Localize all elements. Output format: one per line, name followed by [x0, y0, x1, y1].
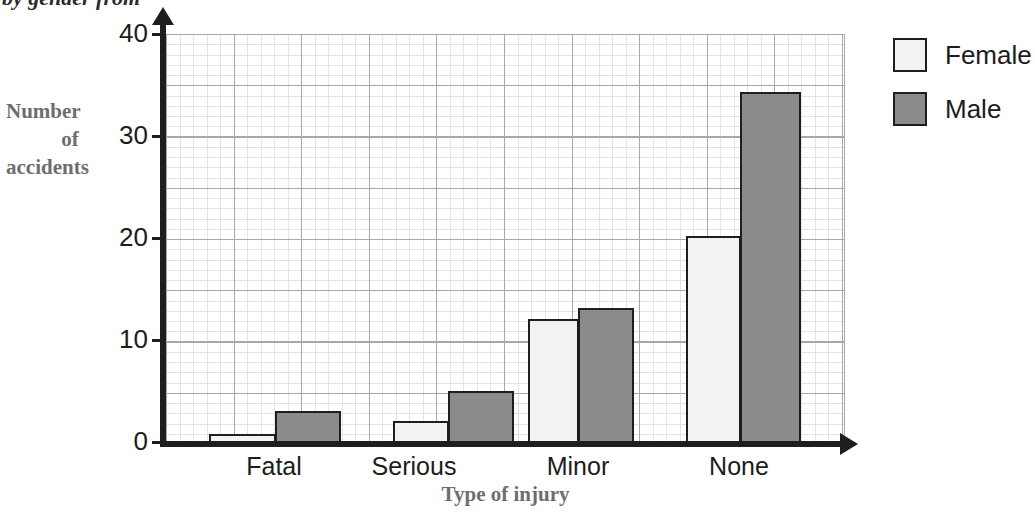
- legend-item-male: Male: [893, 82, 1033, 136]
- y-axis-arrowhead: [152, 7, 174, 25]
- x-axis-label-serious: Serious: [334, 452, 494, 481]
- y-axis-tick-label-10: 10: [119, 326, 148, 352]
- y-axis-tick-30: [152, 135, 163, 138]
- plot-area: [166, 34, 845, 444]
- legend-item-female: Female: [893, 28, 1033, 82]
- x-axis-label-fatal: Fatal: [194, 452, 354, 481]
- legend: Female Male: [893, 28, 1033, 136]
- y-axis-tick-10: [152, 339, 163, 342]
- y-axis-tick-20: [152, 237, 163, 240]
- y-axis-tick-label-40: 40: [119, 20, 148, 46]
- grid-right-border: [844, 34, 845, 444]
- bar-fatal-male: [275, 411, 341, 444]
- y-axis-tick-label-20: 20: [119, 224, 148, 250]
- y-axis-title-line-3: accidents: [6, 154, 134, 182]
- y-axis-title-line-2: of: [6, 126, 134, 154]
- x-axis-label-minor: Minor: [498, 452, 658, 481]
- legend-label-female: Female: [945, 40, 1032, 71]
- legend-label-male: Male: [945, 94, 1001, 125]
- y-axis-line: [160, 22, 166, 447]
- bar-minor-male: [578, 308, 634, 444]
- x-axis-arrowhead: [840, 433, 858, 455]
- chart-figure: by gender from 010203040 Number of accid…: [0, 0, 1035, 513]
- x-axis-title: Type of injury: [166, 482, 845, 507]
- y-axis-tick-labels: 010203040: [0, 0, 148, 513]
- legend-swatch-male: [893, 92, 927, 126]
- x-axis-label-none: None: [659, 452, 819, 481]
- legend-swatch-female: [893, 38, 927, 72]
- y-axis-tick-40: [152, 33, 163, 36]
- y-axis-tick-0: [152, 441, 163, 444]
- bar-none-male: [740, 92, 801, 444]
- y-axis-tick-label-0: 0: [134, 428, 148, 454]
- bar-serious-male: [448, 391, 514, 444]
- x-axis-line: [160, 441, 845, 447]
- bar-minor-female: [528, 319, 579, 444]
- y-axis-title: Number of accidents: [6, 98, 134, 182]
- y-axis-title-line-1: Number: [6, 98, 134, 126]
- bar-none-female: [686, 236, 741, 444]
